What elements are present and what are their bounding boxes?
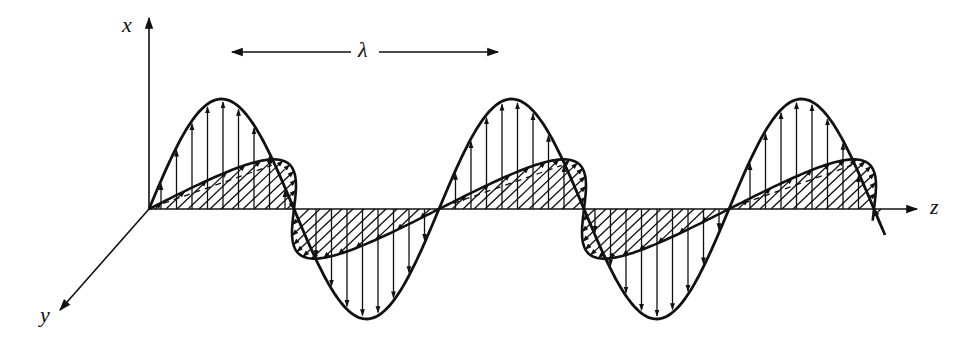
- magnetic-field-vector: [254, 171, 294, 209]
- y-axis-label: y: [40, 304, 50, 326]
- magnetic-field-vector: [293, 209, 331, 245]
- magnetic-field-vector: [771, 170, 812, 209]
- magnetic-field-vector: [639, 209, 683, 251]
- magnetic-field-vector: [590, 209, 639, 255]
- magnetic-field-vector: [583, 209, 617, 242]
- y-axis: [60, 209, 149, 310]
- wavelength-label: λ: [358, 39, 368, 61]
- coordinate-axes: [60, 18, 917, 310]
- magnetic-field-vector: [529, 163, 578, 209]
- magnetic-field-vector: [221, 159, 273, 209]
- magnetic-field-vector: [474, 175, 510, 209]
- em-wave-diagram: [0, 0, 970, 343]
- z-axis-label: z: [930, 196, 939, 218]
- magnetic-field-vector: [312, 209, 364, 259]
- magnetic-field-vector: [679, 209, 705, 234]
- magnetic-field-vector: [551, 176, 585, 209]
- x-axis-label: x: [122, 14, 132, 36]
- magnetic-field-vector: [485, 167, 529, 209]
- magnetic-field-vector: [463, 184, 489, 209]
